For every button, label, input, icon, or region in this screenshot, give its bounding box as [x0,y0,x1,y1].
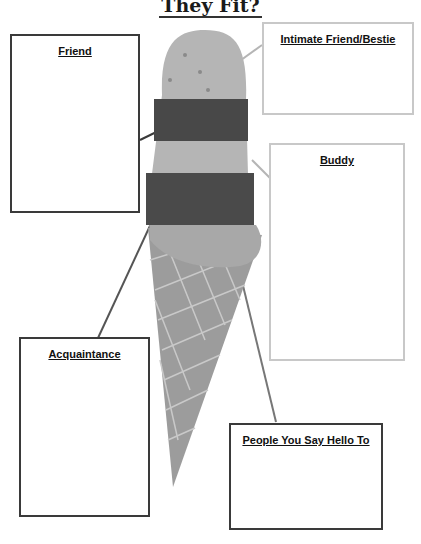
acquaintance-label: Acquaintance [21,348,148,360]
friend-box[interactable]: Friend [10,34,140,213]
intimate-friend-label: Intimate Friend/Bestie [264,33,412,45]
buddy-label: Buddy [271,154,403,166]
buddy-box[interactable]: Buddy [269,143,405,361]
acquaintance-box[interactable]: Acquaintance [19,337,150,517]
hello-box[interactable]: People You Say Hello To [229,423,383,530]
friend-label: Friend [12,45,138,57]
intimate-friend-box[interactable]: Intimate Friend/Bestie [262,22,414,115]
hello-label: People You Say Hello To [231,434,381,446]
